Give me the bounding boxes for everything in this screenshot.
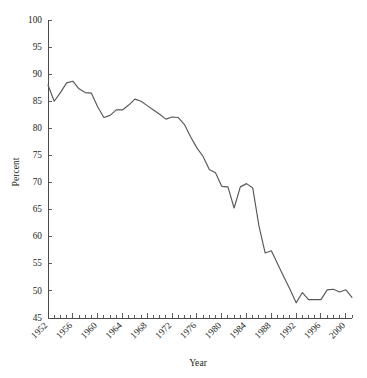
y-axis-title: Percent <box>10 157 21 186</box>
x-axis-title: Year <box>189 357 207 368</box>
y-tick-label: 75 <box>33 150 43 160</box>
y-tick-label: 60 <box>33 231 43 241</box>
y-tick-label: 95 <box>33 42 43 52</box>
y-tick-label: 55 <box>33 258 43 268</box>
chart-figure: 4550556065707580859095100 19521956196019… <box>0 0 367 378</box>
y-tick-label: 65 <box>33 204 43 214</box>
y-tick-label: 50 <box>33 286 43 296</box>
chart-background <box>0 0 367 378</box>
y-tick-label: 90 <box>33 69 43 79</box>
y-tick-label: 80 <box>33 123 43 133</box>
y-tick-label: 85 <box>33 96 43 106</box>
y-tick-label: 70 <box>33 177 43 187</box>
line-chart-plot: 4550556065707580859095100 19521956196019… <box>0 0 367 378</box>
y-tick-label: 100 <box>28 15 42 25</box>
